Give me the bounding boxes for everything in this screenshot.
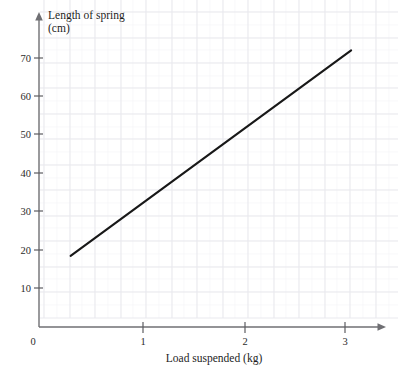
y-tick-label-60: 60: [21, 91, 32, 102]
y-axis-title-line2: (cm): [48, 22, 70, 35]
y-tick-label-50: 50: [21, 129, 32, 140]
x-tick-label-3: 3: [342, 336, 347, 347]
origin-label-0: 0: [30, 336, 35, 347]
y-tick-label-40: 40: [21, 168, 32, 179]
y-tick-label-10: 10: [21, 283, 32, 294]
spring-length-vs-load-chart: 70 60 50 40 30 20 10 0 1 2 3 Length of s…: [0, 0, 398, 373]
y-axis-title-line1: Length of spring: [48, 9, 125, 22]
x-axis-title: Load suspended (kg): [166, 352, 263, 365]
x-axis-title-label: Load suspended (kg): [166, 352, 263, 365]
y-tick-label-20: 20: [21, 245, 32, 256]
y-tick-label-30: 30: [21, 206, 32, 217]
y-tick-label-70: 70: [21, 53, 32, 64]
chart-background: [0, 0, 398, 373]
x-tick-label-2: 2: [242, 336, 247, 347]
x-tick-label-1: 1: [140, 336, 145, 347]
origin-label-group: 0: [30, 336, 35, 347]
